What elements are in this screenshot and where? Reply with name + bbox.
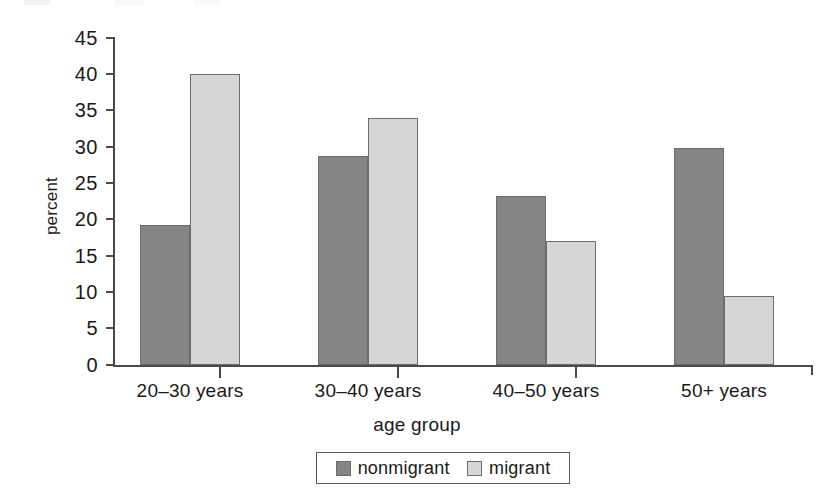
x-tick-mark-1 [219,367,221,378]
x-category-label-50-plus: 50+ years [644,380,804,402]
bar-nonmigrant-20-30 [140,225,190,365]
x-axis-label: age group [0,414,834,436]
bar-migrant-30-40 [368,118,418,365]
y-tick-label-5: 5 [52,318,98,338]
plot-area: percent 45 40 35 30 25 20 15 10 5 0 [0,0,834,496]
bar-chart-figure: percent 45 40 35 30 25 20 15 10 5 0 [0,0,834,496]
y-tick-mark-30 [106,146,115,148]
x-axis-end-tick [811,365,813,375]
x-category-label-20-30: 20–30 years [110,380,270,402]
legend-label-migrant: migrant [489,458,550,479]
y-tick-label-45: 45 [52,28,98,48]
x-axis-line [113,365,813,367]
chart-legend: nonmigrant migrant [316,452,570,484]
y-tick-mark-15 [106,255,115,257]
legend-swatch-migrant [467,461,482,476]
x-tick-mark-3 [575,367,577,378]
y-tick-label-10: 10 [52,282,98,302]
y-tick-label-35: 35 [52,100,98,120]
x-tick-mark-2 [397,367,399,378]
bar-migrant-20-30 [190,74,240,365]
y-tick-label-0: 0 [52,355,98,375]
y-tick-label-15: 15 [52,246,98,266]
bar-nonmigrant-30-40 [318,156,368,365]
y-tick-mark-20 [106,218,115,220]
y-tick-label-40: 40 [52,64,98,84]
y-tick-mark-10 [106,291,115,293]
x-category-label-40-50: 40–50 years [466,380,626,402]
x-category-label-30-40: 30–40 years [288,380,448,402]
bar-migrant-50-plus [724,296,774,365]
y-tick-mark-40 [106,73,115,75]
y-tick-mark-35 [106,109,115,111]
y-tick-label-30: 30 [52,137,98,157]
y-tick-mark-5 [106,327,115,329]
bar-migrant-40-50 [546,241,596,365]
legend-label-nonmigrant: nonmigrant [358,458,450,479]
legend-item-migrant: migrant [467,458,550,479]
bar-nonmigrant-50-plus [674,148,724,365]
y-tick-label-20: 20 [52,209,98,229]
y-tick-mark-45 [106,37,115,39]
legend-swatch-nonmigrant [336,461,351,476]
bar-nonmigrant-40-50 [496,196,546,365]
y-axis-line [113,38,115,367]
y-tick-mark-0 [106,364,115,366]
y-tick-label-25: 25 [52,173,98,193]
legend-item-nonmigrant: nonmigrant [336,458,450,479]
y-tick-mark-25 [106,182,115,184]
